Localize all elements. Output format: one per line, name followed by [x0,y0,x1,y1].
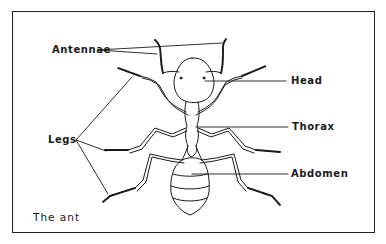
antenna-right [221,39,226,73]
antenna-left [155,40,163,73]
label-legs: Legs [48,134,77,145]
label-head: Head [291,75,322,86]
label-antennae: Antennae [52,44,111,55]
leg-left-front [140,76,186,112]
diagram-caption: The ant [33,211,80,223]
label-thorax: Thorax [292,121,335,132]
leg-left-hind [135,154,182,188]
ant-head [174,58,214,103]
label-abdomen: Abdomen [291,168,348,179]
ant-abdomen [171,158,209,215]
